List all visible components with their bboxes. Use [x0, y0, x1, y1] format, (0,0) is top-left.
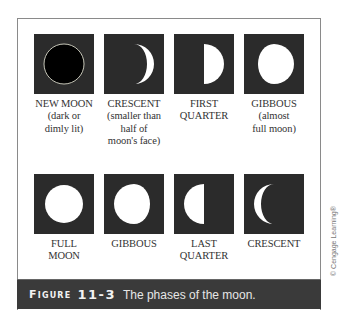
copyright-notice: © Cengage Learning® — [330, 206, 337, 276]
phase-label: LAST QUARTER — [164, 238, 244, 263]
caption-figure-label: Figure — [29, 288, 71, 301]
full-moon-icon — [34, 174, 94, 234]
phase-last-quarter: LAST QUARTER — [174, 174, 234, 263]
phase-waxing-crescent: CRESCENT (smaller than half of moon's fa… — [104, 34, 164, 147]
waxing-gibbous-icon — [244, 34, 304, 94]
phase-waning-crescent: CRESCENT — [244, 174, 304, 250]
phase-label: GIBBOUS (almost full moon) — [234, 98, 314, 135]
new-moon-icon — [34, 34, 94, 94]
phase-waxing-gibbous: GIBBOUS (almost full moon) — [244, 34, 304, 135]
phase-label: CRESCENT — [234, 238, 314, 250]
caption-figure-number: 11-3 — [77, 287, 116, 302]
waxing-crescent-icon — [104, 34, 164, 94]
phase-new-moon: NEW MOON (dark or dimly lit) — [34, 34, 94, 135]
phase-first-quarter: FIRST QUARTER — [174, 34, 234, 123]
waning-crescent-icon — [244, 174, 304, 234]
phase-waning-gibbous: GIBBOUS — [104, 174, 164, 250]
waning-gibbous-icon — [104, 174, 164, 234]
figure-caption: Figure 11-3 The phases of the moon. — [17, 279, 321, 309]
phase-label: GIBBOUS — [94, 238, 174, 250]
phase-full-moon: FULL MOON — [34, 174, 94, 263]
phase-label: CRESCENT (smaller than half of moon's fa… — [94, 98, 174, 147]
phase-label: FULL MOON — [24, 238, 104, 263]
last-quarter-icon — [174, 174, 234, 234]
caption-text: The phases of the moon. — [123, 288, 256, 302]
phase-label: FIRST QUARTER — [164, 98, 244, 123]
phase-label: NEW MOON (dark or dimly lit) — [24, 98, 104, 135]
first-quarter-icon — [174, 34, 234, 94]
